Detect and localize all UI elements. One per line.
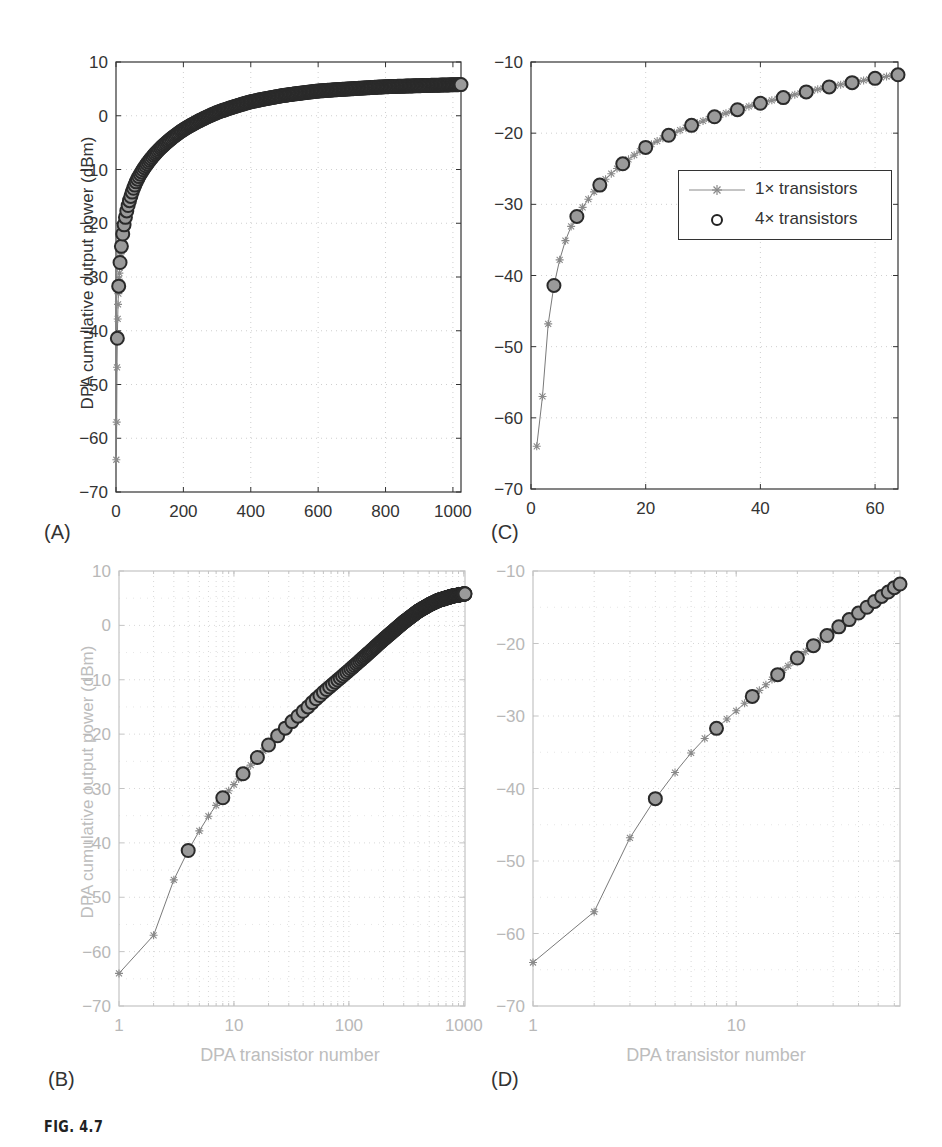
x-tick-label: 0 bbox=[111, 502, 120, 521]
legend-label-4x: 4× transistors bbox=[755, 209, 858, 229]
panel-label-a: (A) bbox=[44, 521, 71, 544]
data-series bbox=[111, 78, 468, 464]
x-tick-label: 200 bbox=[169, 502, 197, 521]
grid-lines bbox=[533, 571, 900, 1006]
panel-a-plot: 02004006008001000100−10−20−30−40−50−60−7… bbox=[79, 53, 472, 521]
x-tick-label: 100 bbox=[335, 1016, 363, 1035]
star-markers bbox=[529, 580, 904, 966]
x-tick-label: 60 bbox=[866, 499, 885, 518]
figure-caption: FIG. 4.7 bbox=[44, 1118, 103, 1136]
y-tick-label: −70 bbox=[496, 997, 525, 1016]
circle-markers bbox=[649, 578, 907, 806]
legend-entry-4x: 4× transistors bbox=[679, 205, 891, 235]
y-tick-label: −30 bbox=[496, 707, 525, 726]
y-tick-label: 10 bbox=[92, 562, 111, 581]
y-tick-label: 10 bbox=[89, 53, 108, 72]
panel-d-x-axis-label: DPA transistor number bbox=[566, 1045, 866, 1066]
y-tick-label: −50 bbox=[496, 852, 525, 871]
star-markers bbox=[533, 71, 902, 450]
grid-lines bbox=[531, 62, 898, 489]
y-tick-label: −30 bbox=[494, 195, 523, 214]
data-series bbox=[533, 68, 905, 450]
star-markers bbox=[115, 590, 469, 978]
y-tick-label: 0 bbox=[99, 107, 108, 126]
circle-marker-icon bbox=[679, 205, 755, 235]
y-tick-label: 0 bbox=[102, 616, 111, 635]
panel-label-d: (D) bbox=[491, 1068, 519, 1091]
x-tick-label: 1 bbox=[528, 1016, 537, 1035]
x-tick-label: 1000 bbox=[445, 1016, 483, 1035]
y-tick-label: −10 bbox=[496, 562, 525, 581]
panel-c-plot: 0204060−10−20−30−40−50−60−70 bbox=[494, 53, 904, 518]
legend-label-1x: 1× transistors bbox=[755, 179, 858, 199]
y-tick-label: −70 bbox=[79, 483, 108, 502]
grid-lines bbox=[116, 62, 461, 492]
x-tick-label: 10 bbox=[727, 1016, 746, 1035]
x-tick-label: 1000 bbox=[434, 502, 472, 521]
circle-markers bbox=[182, 587, 472, 857]
circle-markers bbox=[111, 78, 468, 345]
y-tick-label: −20 bbox=[496, 635, 525, 654]
data-series bbox=[115, 587, 472, 977]
x-tick-label: 10 bbox=[224, 1016, 243, 1035]
y-tick-label: −50 bbox=[494, 338, 523, 357]
y-tick-label: −20 bbox=[494, 124, 523, 143]
y-tick-label: −60 bbox=[496, 925, 525, 944]
y-tick-label: −10 bbox=[494, 53, 523, 72]
y-tick-label: −40 bbox=[494, 267, 523, 286]
x-tick-label: 1 bbox=[114, 1016, 123, 1035]
grid-lines bbox=[119, 571, 465, 1006]
panel-a-y-axis-label: DPA cumulative output power (dBm) bbox=[78, 103, 98, 443]
panel-d-plot: 110−10−20−30−40−50−60−70 bbox=[496, 562, 906, 1035]
data-series bbox=[529, 578, 907, 967]
panel-b-plot: 1101001000100−10−20−30−40−50−60−70 bbox=[82, 562, 483, 1035]
x-tick-label: 20 bbox=[636, 499, 655, 518]
panel-label-c: (C) bbox=[491, 521, 519, 544]
legend-entry-1x: 1× transistors bbox=[679, 175, 891, 205]
x-tick-label: 600 bbox=[304, 502, 332, 521]
axes-frame bbox=[119, 571, 465, 1006]
axes-frame bbox=[116, 62, 461, 492]
panel-b-x-axis-label: DPA transistor number bbox=[140, 1045, 440, 1066]
y-tick-label: −70 bbox=[494, 480, 523, 499]
x-tick-label: 800 bbox=[371, 502, 399, 521]
y-tick-label: −60 bbox=[494, 409, 523, 428]
x-tick-label: 400 bbox=[237, 502, 265, 521]
panel-c-legend: 1× transistors 4× transistors bbox=[678, 170, 892, 240]
y-tick-label: −70 bbox=[82, 997, 111, 1016]
x-tick-label: 0 bbox=[526, 499, 535, 518]
star-marker-line-icon bbox=[679, 175, 755, 205]
panel-label-b: (B) bbox=[48, 1068, 75, 1091]
x-tick-label: 40 bbox=[751, 499, 770, 518]
panel-b-y-axis-label: DPA cumulative output power (dBm) bbox=[78, 612, 98, 952]
y-tick-label: −40 bbox=[496, 780, 525, 799]
